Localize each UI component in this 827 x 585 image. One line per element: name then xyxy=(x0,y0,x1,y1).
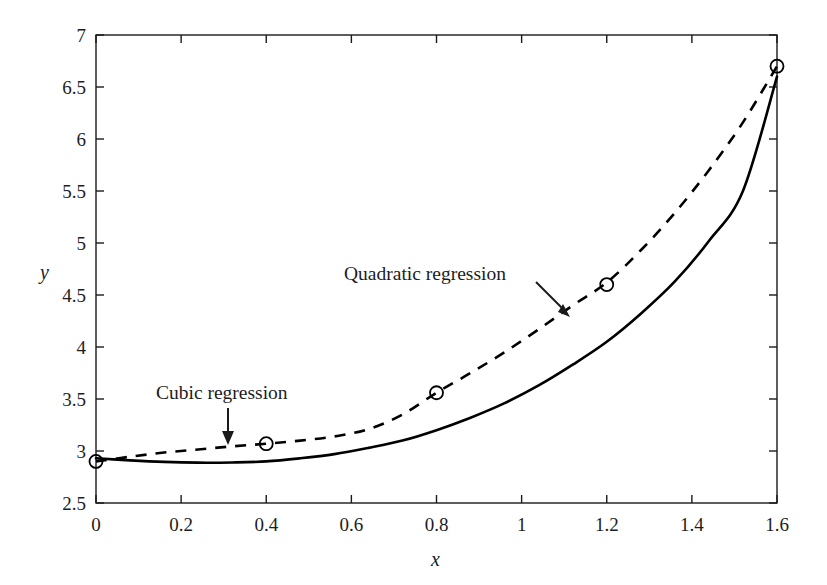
quadratic-regression-annotation: Quadratic regression xyxy=(344,264,506,284)
x-tick-label: 0.6 xyxy=(321,515,381,534)
plot-canvas xyxy=(0,0,827,585)
y-tick-label: 5 xyxy=(18,234,86,253)
regression-chart-figure: 2.533.544.555.566.57 00.20.40.60.811.21.… xyxy=(0,0,827,585)
x-tick-label: 1.4 xyxy=(662,515,722,534)
y-tick-label: 7 xyxy=(18,26,86,45)
x-tick-label: 1 xyxy=(492,515,552,534)
y-tick-label: 2.5 xyxy=(18,494,86,513)
x-tick-label: 0.2 xyxy=(151,515,211,534)
cubic-regression-annotation: Cubic regression xyxy=(156,383,288,403)
x-tick-label: 0.8 xyxy=(407,515,467,534)
y-tick-label: 6.5 xyxy=(18,78,86,97)
x-tick-label: 1.2 xyxy=(577,515,637,534)
y-tick-label: 5.5 xyxy=(18,182,86,201)
x-tick-label: 0 xyxy=(66,515,126,534)
y-tick-label: 3 xyxy=(18,442,86,461)
y-tick-label: 4.5 xyxy=(18,286,86,305)
y-tick-label: 4 xyxy=(18,338,86,357)
x-tick-label: 0.4 xyxy=(236,515,296,534)
x-tick-label: 1.6 xyxy=(747,515,807,534)
y-axis-title: y xyxy=(40,262,49,282)
y-tick-label: 6 xyxy=(18,130,86,149)
x-axis-title: x xyxy=(431,549,440,569)
figure-background xyxy=(0,0,827,585)
y-tick-label: 3.5 xyxy=(18,390,86,409)
